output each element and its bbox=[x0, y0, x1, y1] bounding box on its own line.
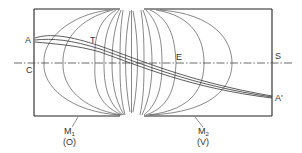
label-m1-note: (O) bbox=[63, 137, 76, 147]
label-c: C bbox=[26, 65, 33, 75]
label-m1: M1 bbox=[64, 126, 76, 137]
label-m2: M2 bbox=[198, 126, 210, 137]
label-s: S bbox=[275, 51, 281, 61]
left-field-lines bbox=[44, 10, 125, 115]
label-a: A bbox=[25, 35, 31, 45]
frame bbox=[34, 9, 272, 116]
right-field-lines bbox=[140, 10, 232, 115]
label-e: E bbox=[176, 52, 182, 62]
label-t: T bbox=[90, 35, 96, 45]
field-line-diagram: A T C E S A' M1 (O) M2 (V) bbox=[0, 0, 302, 153]
label-m2-note: (V) bbox=[197, 137, 209, 147]
m1-leader bbox=[72, 117, 78, 127]
label-a-prime: A' bbox=[275, 93, 283, 103]
